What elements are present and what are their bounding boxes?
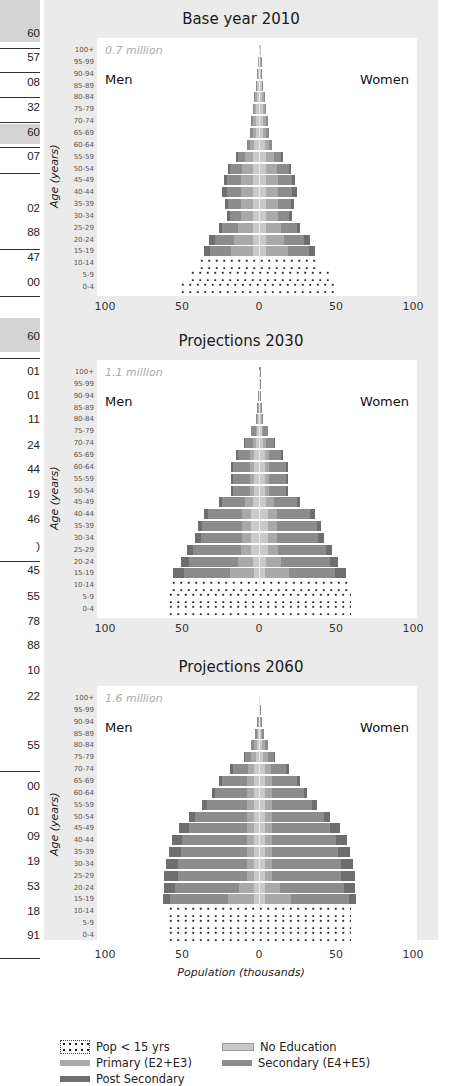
- bar-segment-prim: [231, 246, 252, 256]
- bar-segment-prim: [242, 164, 253, 174]
- age-group-label: 5-9: [52, 919, 94, 927]
- women-bar-25-29: [260, 545, 332, 555]
- bar-segment-prim: [241, 187, 253, 197]
- legend-label: Secondary (E4+E5): [258, 1056, 370, 1070]
- men-bar-65-69: [219, 776, 259, 786]
- women-bar-30-34: [260, 533, 324, 543]
- age-group-label: 10-14: [52, 259, 94, 267]
- women-bar-70-74: [260, 764, 289, 774]
- bar-segment-prim: [266, 164, 277, 174]
- center-axis-line: [259, 48, 260, 266]
- bar-segment-post: [292, 187, 297, 197]
- men-bar-30-34: [166, 859, 259, 869]
- bar-segment-post: [274, 438, 276, 448]
- bar-segment-sec: [233, 764, 248, 774]
- women-bar-50-54: [260, 812, 330, 822]
- women-label: Women: [360, 72, 409, 87]
- bar-segment-sec: [277, 509, 311, 519]
- bar-segment-prim: [266, 175, 278, 185]
- table-cell: 10: [0, 664, 40, 676]
- bar-segment-sec: [281, 223, 296, 233]
- women-bar-15-19: [260, 246, 315, 256]
- men-bar-50-54: [231, 486, 259, 496]
- x-tick-label: 100: [95, 948, 116, 961]
- women-bar-30-34: [260, 859, 353, 869]
- total-population-annotation: 1.1 million: [105, 366, 163, 379]
- bar-segment-sec: [263, 426, 268, 436]
- legend-label: Primary (E2+E3): [96, 1056, 192, 1070]
- bar-segment-prim: [266, 199, 278, 209]
- bar-segment-sec: [278, 187, 292, 197]
- bar-segment-prim: [266, 187, 278, 197]
- bar-segment-sec: [227, 187, 241, 197]
- women-bar-45-49: [260, 175, 295, 185]
- bar-segment-sec: [269, 140, 272, 150]
- pyramid-panel-3: Projections 20601.6 millionMenWomen100+9…: [44, 648, 438, 940]
- age-group-label: 70-74: [52, 765, 94, 773]
- bar-segment-post: [310, 509, 315, 519]
- bar-segment-sec: [193, 545, 240, 555]
- pyramid-panel-1: Base year 20100.7 millionMenWomen100+95-…: [44, 0, 438, 322]
- y-axis-label: Age (years): [48, 792, 61, 856]
- bar-segment-noed: [260, 533, 268, 543]
- bar-segment-post: [292, 175, 295, 185]
- bar-segment-sec: [245, 438, 253, 448]
- women-bar-40-44: [260, 509, 315, 519]
- men-bar-60-64: [212, 788, 259, 798]
- bar-segment-sec: [201, 533, 242, 543]
- bar-segment-sec: [278, 211, 289, 221]
- age-group-label: 25-29: [52, 872, 94, 880]
- men-label: Men: [105, 72, 132, 87]
- x-tick-label: 100: [403, 948, 424, 961]
- bar-segment-noed: [251, 533, 259, 543]
- bar-segment-sec: [222, 497, 245, 507]
- bar-segment-prim: [247, 847, 255, 857]
- bar-segment-sec: [207, 800, 247, 810]
- bar-segment-sec: [228, 199, 240, 209]
- bar-segment-sec: [222, 776, 246, 786]
- age-group-label: 100+: [52, 694, 94, 702]
- x-tick-label: 50: [175, 622, 189, 635]
- bar-segment-prim: [265, 800, 273, 810]
- women-bar-25-29: [260, 223, 300, 233]
- women-bar-75-79: [260, 752, 275, 762]
- pop-under-15-region: [167, 603, 351, 615]
- table-cell: 46: [0, 513, 40, 525]
- table-cell: 32: [0, 101, 40, 113]
- x-tick-label: 0: [256, 300, 263, 313]
- men-bar-40-44: [222, 187, 259, 197]
- table-rule: [0, 296, 40, 297]
- table-rule: [0, 249, 40, 250]
- women-bar-60-64: [260, 788, 307, 798]
- table-cell: 07: [0, 150, 40, 162]
- table-cell: 60: [0, 126, 40, 138]
- x-tick-label: 100: [95, 622, 116, 635]
- bar-segment-post: [297, 776, 300, 786]
- age-group-label: 30-34: [52, 534, 94, 542]
- y-axis-label: Age (years): [48, 466, 61, 530]
- men-bar-15-19: [163, 894, 259, 904]
- bar-segment-post: [163, 894, 171, 904]
- pop-under-15-region: [189, 269, 330, 281]
- bar-segment-prim: [247, 788, 255, 798]
- age-group-label: 15-19: [52, 247, 94, 255]
- age-group-label: 65-69: [52, 451, 94, 459]
- bar-segment-prim: [266, 235, 284, 245]
- men-bar-55-59: [236, 152, 259, 162]
- table-cell: 11: [0, 413, 40, 425]
- women-bar-30-34: [260, 211, 292, 221]
- men-bar-20-24: [181, 557, 259, 567]
- legend-label: Pop < 15 yrs: [96, 1040, 170, 1054]
- bar-segment-sec: [269, 474, 286, 484]
- primary-swatch-icon: [60, 1060, 90, 1066]
- table-cell: 47: [0, 251, 40, 263]
- age-group-label: 100+: [52, 368, 94, 376]
- bar-segment-prim: [247, 800, 255, 810]
- bar-segment-sec: [178, 871, 247, 881]
- men-bar-30-34: [227, 211, 259, 221]
- table-cell: 01: [0, 365, 40, 377]
- bar-segment-post: [291, 199, 294, 209]
- men-bar-45-49: [179, 823, 259, 833]
- bar-segment-sec: [227, 175, 241, 185]
- bar-segment-sec: [202, 521, 242, 531]
